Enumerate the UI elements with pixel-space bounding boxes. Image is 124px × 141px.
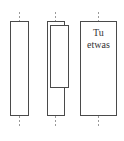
column-single (11, 12, 29, 126)
box-label-line-2: etwas (87, 39, 110, 50)
diagram-canvas: Tu etwas (0, 0, 124, 141)
box-label-line-1: Tu (93, 27, 104, 38)
front-overlay-box (51, 26, 69, 88)
single-box (11, 22, 29, 116)
column-stacked (48, 12, 69, 126)
column-text: Tu etwas (81, 12, 117, 126)
